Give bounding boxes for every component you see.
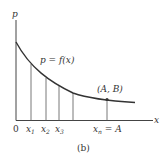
tick-label-x1: x1 — [26, 124, 35, 135]
figure-caption: (b) — [77, 143, 90, 153]
point-a-b — [105, 98, 108, 101]
tick-label-xn: xn = A — [93, 124, 122, 135]
curve-label: p = f(x) — [40, 55, 75, 65]
y-axis-label: p — [12, 9, 18, 19]
x-axis-label: x — [154, 115, 159, 125]
tick-label-x2: x2 — [41, 124, 50, 135]
origin-label: 0 — [13, 124, 19, 134]
diagram-canvas: p x 0 p = f(x) (A, B) x1 x2 x3 xn = A (b… — [0, 0, 166, 166]
tick-label-x3: x3 — [55, 124, 64, 135]
point-label: (A, B) — [97, 84, 123, 94]
